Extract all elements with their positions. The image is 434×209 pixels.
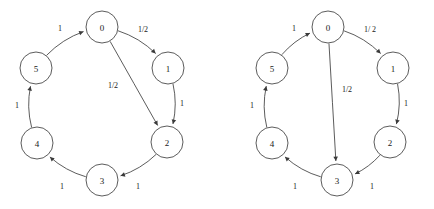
node-5[interactable]: 5 [20,52,52,84]
edge-label-5-to-0: 1 [292,24,296,33]
node-label-4: 4 [35,139,40,149]
edge-label-0-to-1: 1/2 [138,25,148,34]
edge-5-to-0 [282,33,310,55]
edge-5-to-0 [47,32,84,56]
edge-0-to-1 [344,31,381,54]
edge-0-to-3 [329,43,336,161]
edges-layer [27,31,399,177]
node-label-2: 2 [388,138,393,148]
node-0[interactable]: 0 [86,11,118,43]
node-label-1: 1 [391,64,396,74]
node-5[interactable]: 5 [256,52,288,84]
node-label-0: 0 [100,23,105,33]
node-label-5: 5 [34,64,39,74]
edge-1-to-2 [173,84,175,124]
node-4[interactable]: 4 [21,127,53,159]
arrowhead-4-to-5 [27,86,31,91]
node-label-5: 5 [270,64,275,74]
edge-0-to-1 [118,31,156,54]
node-label-2: 2 [165,138,170,148]
edge-label-4-to-5: 1 [250,101,254,110]
node-0[interactable]: 0 [312,11,344,43]
edge-label-2-to-3: 1 [136,182,140,191]
arrowhead-0-to-3 [333,157,338,162]
edge-3-to-4 [50,157,86,177]
edge-2-to-3 [355,155,380,174]
edge-label-0-to-2: 1/2 [108,81,118,90]
diagram-canvas: 012345012345 11/21/2111111/ 21/21111 [0,0,434,209]
arrowhead-1-to-2 [395,119,399,124]
edge-4-to-5 [29,86,32,127]
edge-label-1-to-2: 1 [404,99,408,108]
nodes-layer: 012345012345 [20,11,409,196]
arrowhead-1-to-2 [172,119,176,124]
edge-label-5-to-0: 1 [58,24,62,33]
markov-chain-figure: 012345012345 11/21/2111111/ 21/21111 [0,0,434,209]
node-3[interactable]: 3 [321,164,353,196]
edge-labels-layer: 11/21/2111111/ 21/21111 [15,24,408,191]
node-1[interactable]: 1 [377,52,409,84]
node-1[interactable]: 1 [152,52,184,84]
edge-4-to-5 [264,86,267,127]
edge-1-to-2 [396,84,399,124]
edge-label-3-to-4: 1 [60,182,64,191]
node-2[interactable]: 2 [151,126,183,158]
node-label-3: 3 [100,176,105,186]
node-label-0: 0 [326,23,331,33]
edge-3-to-4 [285,157,321,177]
node-label-1: 1 [166,64,171,74]
arrowhead-4-to-5 [263,86,267,91]
edge-2-to-3 [121,154,157,175]
edge-label-3-to-4: 1 [293,182,297,191]
edge-label-0-to-1: 1/ 2 [364,25,376,34]
edge-label-1-to-2: 1 [180,99,184,108]
node-label-3: 3 [335,176,340,186]
node-2[interactable]: 2 [374,126,406,158]
node-4[interactable]: 4 [256,127,288,159]
node-label-4: 4 [270,139,275,149]
edge-label-0-to-3: 1/2 [342,85,352,94]
edge-label-4-to-5: 1 [15,101,19,110]
node-3[interactable]: 3 [86,164,118,196]
edge-label-2-to-3: 1 [370,182,374,191]
